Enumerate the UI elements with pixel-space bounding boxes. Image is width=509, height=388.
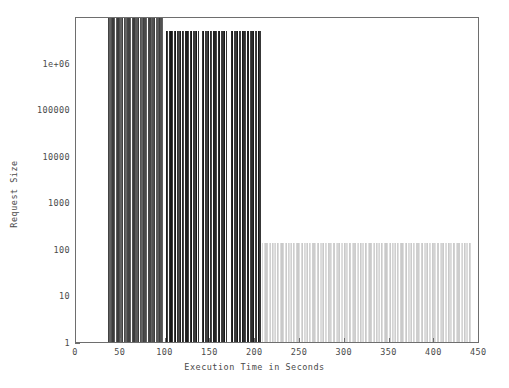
x-tick-label-100: 100 <box>156 347 173 357</box>
y-axis-title: Request Size <box>9 160 19 227</box>
bar-impulse <box>198 31 199 342</box>
x-tick-label-350: 350 <box>380 347 397 357</box>
y-tick-label-10: 10 <box>59 291 70 301</box>
x-tick-label-200: 200 <box>246 347 263 357</box>
y-tick-label-1: 1 <box>64 338 70 348</box>
bar-impulse <box>259 31 260 342</box>
x-tick-label-0: 0 <box>72 347 78 357</box>
bar-impulse <box>470 243 471 342</box>
x-tick-label-250: 250 <box>291 347 308 357</box>
bar-impulse <box>162 17 163 342</box>
y-tick-label-1000: 1000 <box>48 198 70 208</box>
y-tick-label-10000: 10000 <box>42 152 70 162</box>
bar-impulse <box>226 31 227 342</box>
x-tick-label-150: 150 <box>201 347 218 357</box>
x-axis-title: Execution Time in Seconds <box>0 362 509 372</box>
x-tick-label-400: 400 <box>425 347 442 357</box>
chart-figure: 1 10 100 1000 10000 100000 1e+06 <box>0 0 509 388</box>
x-tick-label-300: 300 <box>336 347 353 357</box>
y-tick-label-100000: 100000 <box>37 105 70 115</box>
x-tick-label-50: 50 <box>114 347 125 357</box>
x-tick-label-450: 450 <box>470 347 487 357</box>
y-tick-label-100: 100 <box>53 245 70 255</box>
plot-area <box>75 17 479 343</box>
y-tick-label-1e06: 1e+06 <box>42 59 70 69</box>
